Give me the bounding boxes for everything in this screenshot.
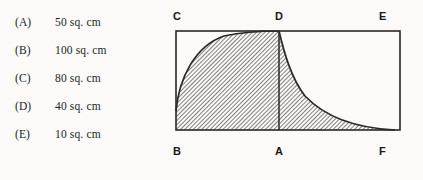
answer-option-letter: (D) xyxy=(15,100,45,112)
answer-option-letter: (A) xyxy=(15,16,45,28)
answer-option-text: 80 sq. cm xyxy=(55,72,101,84)
answer-option-text: 50 sq. cm xyxy=(55,16,101,28)
answer-option-letter: (E) xyxy=(15,128,45,140)
vertex-label-c: C xyxy=(173,10,181,22)
vertex-label-d: D xyxy=(275,10,283,22)
answer-option-letter: (C) xyxy=(15,72,45,84)
vertex-label-b: B xyxy=(173,145,181,157)
geometry-figure: C D E B A F xyxy=(165,0,423,180)
answer-option-text: 100 sq. cm xyxy=(55,44,107,56)
answer-options-list: (A) 50 sq. cm (B) 100 sq. cm (C) 80 sq. … xyxy=(0,0,165,180)
page-root: (A) 50 sq. cm (B) 100 sq. cm (C) 80 sq. … xyxy=(0,0,423,180)
answer-option-text: 10 sq. cm xyxy=(55,128,101,140)
answer-option-a[interactable]: (A) 50 sq. cm xyxy=(0,12,165,32)
answer-option-e[interactable]: (E) 10 sq. cm xyxy=(0,124,165,144)
vertex-label-a: A xyxy=(275,145,283,157)
vertex-label-f: F xyxy=(379,145,386,157)
answer-option-b[interactable]: (B) 100 sq. cm xyxy=(0,40,165,60)
answer-option-letter: (B) xyxy=(15,44,45,56)
vertex-label-e: E xyxy=(379,10,387,22)
answer-option-d[interactable]: (D) 40 sq. cm xyxy=(0,96,165,116)
answer-option-c[interactable]: (C) 80 sq. cm xyxy=(0,68,165,88)
shaded-region xyxy=(176,31,400,130)
answer-option-text: 40 sq. cm xyxy=(55,100,101,112)
